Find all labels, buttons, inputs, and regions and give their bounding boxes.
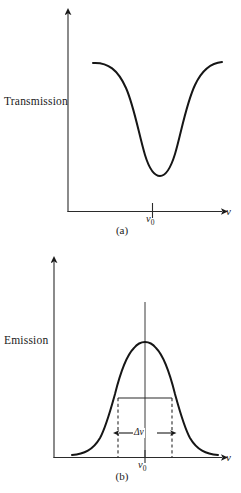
panel-b-caption: (b) [92, 470, 152, 482]
panel-a-transmission: Transmission ν ν0 (a) [0, 0, 241, 246]
panel-b-linewidth-label: Δν [133, 428, 145, 438]
panel-a-transmission-curve [93, 62, 222, 176]
panel-b-plot-svg [0, 246, 241, 493]
panel-a-y-axis-label: Transmission [4, 96, 68, 108]
panel-b-emission: Emission ν ν0 Δν (b) [0, 246, 241, 493]
panel-b-y-axis-label: Emission [4, 335, 48, 347]
panel-a-plot-svg [0, 0, 241, 246]
panel-a-caption: (a) [92, 224, 152, 236]
panel-b-x-axis-label: ν [226, 452, 231, 463]
panel-a-x-axis-label: ν [226, 206, 231, 217]
figure-root: Transmission ν ν0 (a) [0, 0, 241, 493]
